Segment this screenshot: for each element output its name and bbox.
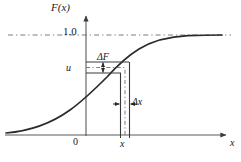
y-tick-label-one: 1.0 [63,26,77,37]
x-tick-label: x [120,139,124,149]
delta-x-label: Δx [132,97,142,107]
y-tick-label-u: u [66,63,71,73]
x-axis-label: x [230,138,234,148]
cdf-diagram: F(x) 1.0 u ΔF Δx 0 x x [0,0,241,162]
delta-f-label: ΔF [97,52,109,62]
origin-label: 0 [73,137,78,147]
cdf-curve [6,35,222,133]
y-axis-label: F(x) [51,2,70,13]
